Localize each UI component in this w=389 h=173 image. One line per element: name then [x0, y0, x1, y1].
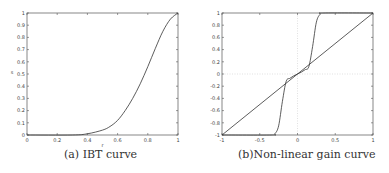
y-tick-label: 0.5	[17, 71, 25, 77]
x-tick-label: 0.5	[331, 137, 339, 143]
x-tick-label: 0	[25, 137, 28, 143]
gain-plot: -1-0.500.51-1-0.8-0.6-0.4-0.200.20.40.60…	[210, 10, 374, 143]
y-tick-label: 0.2	[17, 107, 25, 113]
y-tick-label: 0.6	[212, 34, 220, 40]
series-IBT	[27, 13, 178, 135]
y-tick-label: 0.7	[17, 46, 25, 52]
y-tick-label: 0	[217, 71, 220, 77]
y-tick-label: 1	[217, 10, 220, 16]
y-tick-label: 0.4	[212, 46, 220, 52]
y-tick-label: -0.8	[210, 120, 220, 126]
y-axis-label: s	[11, 69, 14, 75]
y-tick-label: -0.4	[210, 95, 220, 101]
y-tick-label: -0.2	[210, 83, 220, 89]
y-tick-label: 0.8	[212, 22, 220, 28]
x-tick-label: 0.4	[83, 137, 91, 143]
x-tick-label: 0	[296, 137, 299, 143]
x-tick-label: -0.5	[255, 137, 265, 143]
y-tick-label: -1	[215, 132, 220, 138]
caption-b: (b)Non-linear gain curve	[238, 148, 376, 161]
x-tick-label: 1	[371, 137, 374, 143]
y-tick-label: 0.2	[212, 59, 220, 65]
y-tick-label: 0.8	[17, 34, 25, 40]
x-tick-label: 0.6	[114, 137, 122, 143]
x-tick-label: -1	[220, 137, 225, 143]
y-tick-label: 0	[22, 132, 25, 138]
y-tick-label: 0.6	[17, 59, 25, 65]
x-tick-label: 0.2	[53, 137, 61, 143]
ibt-plot: 00.20.40.60.8100.10.20.30.40.50.60.70.80…	[11, 10, 180, 148]
y-tick-label: -0.6	[210, 107, 220, 113]
y-tick-label: 0.1	[17, 120, 25, 126]
y-tick-label: 0.4	[17, 83, 25, 89]
x-tick-label: 1	[176, 137, 179, 143]
y-tick-label: 0.9	[17, 22, 25, 28]
x-tick-label: 0.8	[144, 137, 152, 143]
axes-box	[27, 13, 178, 135]
y-tick-label: 1	[22, 10, 25, 16]
y-tick-label: 0.3	[17, 95, 25, 101]
caption-a: (a) IBT curve	[64, 148, 137, 161]
